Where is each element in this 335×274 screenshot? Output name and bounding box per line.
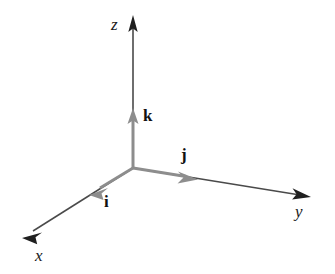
y-axis-label: y: [295, 203, 303, 220]
k-vector-group: [128, 108, 139, 168]
z-axis-label: z: [111, 16, 118, 33]
i-vector-label: i: [104, 193, 109, 210]
j-vector-label: j: [181, 146, 187, 163]
coordinate-axes-figure: z y x k j i: [0, 0, 335, 274]
axes-diagram: [0, 0, 335, 274]
x-axis-label: x: [35, 247, 43, 264]
i-vector-group: [89, 168, 133, 200]
i-vector-shaft: [100, 168, 133, 188]
j-vector-group: [133, 168, 198, 184]
j-vector-shaft: [133, 168, 186, 177]
x-axis-arrowhead: [22, 233, 42, 245]
k-vector-label: k: [143, 107, 152, 124]
